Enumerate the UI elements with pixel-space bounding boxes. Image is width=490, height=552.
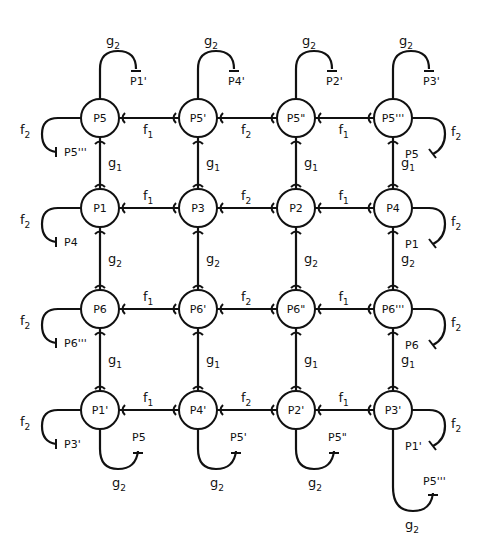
edge-label-g1: g1 — [108, 155, 122, 173]
edge-label-g1: g1 — [206, 155, 220, 173]
loop-target-label: P1 — [405, 238, 419, 251]
state-node-label: P3' — [385, 404, 402, 417]
state-node-label: P4' — [190, 404, 207, 417]
state-node-label: P5' — [190, 112, 207, 125]
loop-label-g2: g2 — [106, 33, 120, 51]
state-node: P6''' — [374, 290, 412, 328]
loop-label-f2: f2 — [20, 212, 30, 230]
state-node: P2' — [277, 391, 315, 429]
loop-label-f2: f2 — [451, 124, 461, 142]
nodes-layer: P5P5'P5"P5'''P1P3P2P4P6P6'P6"P6'''P1'P4'… — [81, 99, 412, 429]
loop-target-label: P1' — [405, 440, 422, 453]
loop-target-label: P5''' — [423, 475, 446, 488]
edge-label-g2: g2 — [304, 251, 318, 269]
state-node: P6' — [179, 290, 217, 328]
loop-label-g2: g2 — [308, 475, 322, 493]
state-node-label: P6' — [190, 303, 207, 316]
state-node: P6 — [81, 290, 119, 328]
loop-label-g2: g2 — [302, 33, 316, 51]
loop-target-label: P3' — [423, 75, 440, 88]
loop-label-g2: g2 — [399, 33, 413, 51]
state-node: P2 — [277, 189, 315, 227]
loop-label-g2: g2 — [204, 33, 218, 51]
edge-label-f2: f2 — [241, 289, 251, 307]
state-node-label: P1' — [92, 404, 109, 417]
state-node-label: P2' — [288, 404, 305, 417]
edge-label-g1: g1 — [304, 352, 318, 370]
state-grid-diagram: P5P5'P5"P5'''P1P3P2P4P6P6'P6"P6'''P1'P4'… — [0, 0, 490, 552]
loop-target-label: P5''' — [64, 146, 87, 159]
edge-label-g2: g2 — [206, 251, 220, 269]
state-node-label: P6" — [287, 303, 306, 316]
state-node-label: P5''' — [382, 112, 405, 125]
loop-label-f2: f2 — [451, 315, 461, 333]
state-node-label: P2 — [289, 202, 303, 215]
state-node: P3' — [374, 391, 412, 429]
edge-label-g1: g1 — [108, 352, 122, 370]
state-node: P4' — [179, 391, 217, 429]
loop-label-f2: f2 — [451, 416, 461, 434]
loop-label-g2: g2 — [210, 475, 224, 493]
edge-label-f1: f1 — [143, 188, 153, 206]
edge-label-g2: g2 — [108, 251, 122, 269]
state-node-label: P6 — [93, 303, 107, 316]
loop-label-f2: f2 — [20, 414, 30, 432]
loop-label-g2: g2 — [405, 517, 419, 535]
state-node: P1 — [81, 189, 119, 227]
edge-label-g1: g1 — [304, 155, 318, 173]
edge-label-g1: g1 — [401, 352, 415, 370]
edge-label-f1: f1 — [339, 122, 349, 140]
edge-label-f1: f1 — [143, 390, 153, 408]
state-node: P5' — [179, 99, 217, 137]
loop-target-label: P4 — [64, 236, 78, 249]
loop-target-label: P3' — [64, 438, 81, 451]
loop-target-label: P1' — [130, 75, 147, 88]
edge-label-f1: f1 — [143, 289, 153, 307]
state-node: P5 — [81, 99, 119, 137]
edge-label-g2: g2 — [401, 251, 415, 269]
loop-target-label: P4' — [228, 75, 245, 88]
loop-target-label: P6''' — [64, 337, 87, 350]
loop-label-f2: f2 — [451, 214, 461, 232]
edge-label-f1: f1 — [339, 289, 349, 307]
edge-label-g1: g1 — [206, 352, 220, 370]
edge-label-f2: f2 — [241, 390, 251, 408]
loop-target-label: P5" — [328, 431, 347, 444]
state-node-label: P3 — [191, 202, 205, 215]
edge-label-f1: f1 — [339, 188, 349, 206]
loop-label-f2: f2 — [20, 122, 30, 140]
state-node-label: P4 — [386, 202, 400, 215]
state-node: P6" — [277, 290, 315, 328]
loop-target-label: P6 — [405, 339, 419, 352]
loop-target-label: P5' — [230, 431, 247, 444]
state-node-label: P6''' — [382, 303, 405, 316]
loop-target-label: P5 — [405, 148, 419, 161]
edge-label-f1: f1 — [339, 390, 349, 408]
state-node: P5" — [277, 99, 315, 137]
state-node: P5''' — [374, 99, 412, 137]
edge-label-f2: f2 — [241, 122, 251, 140]
loop-label-f2: f2 — [20, 313, 30, 331]
loop-label-g2: g2 — [112, 475, 126, 493]
edge-label-f2: f2 — [241, 188, 251, 206]
state-node: P1' — [81, 391, 119, 429]
loop-target-label: P5 — [132, 431, 146, 444]
loop-target-label: P2' — [326, 75, 343, 88]
state-node-label: P5" — [287, 112, 306, 125]
state-node: P3 — [179, 189, 217, 227]
edge-label-f1: f1 — [143, 122, 153, 140]
edges-layer — [95, 113, 398, 415]
state-node-label: P5 — [93, 112, 107, 125]
state-node-label: P1 — [93, 202, 107, 215]
state-node: P4 — [374, 189, 412, 227]
